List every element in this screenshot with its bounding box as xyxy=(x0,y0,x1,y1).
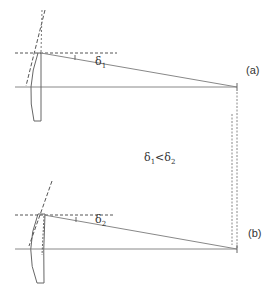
panel-label-a: (a) xyxy=(246,64,259,76)
lens-deflection-diagram xyxy=(0,0,274,293)
panel-label-b: (b) xyxy=(248,227,261,239)
comparison-label: δ1<δ2 xyxy=(144,151,175,166)
normal-dashed-a xyxy=(26,10,45,86)
panel-b xyxy=(15,181,237,283)
refracted-ray-a xyxy=(41,53,237,87)
refracted-ray-b xyxy=(44,215,237,249)
panel-a xyxy=(15,10,237,121)
vertical-dashed-a xyxy=(41,10,42,53)
angle-label-a: δ1 xyxy=(95,55,106,70)
angle-label-b: δ2 xyxy=(95,213,106,228)
